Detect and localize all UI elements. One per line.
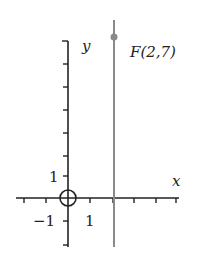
y-axis-label: y	[81, 37, 91, 55]
y-tick-label-1: 1	[49, 168, 59, 186]
point-f-marker	[111, 34, 118, 41]
y-axis	[62, 41, 68, 247]
x-axis	[16, 198, 179, 203]
x-tick-label-neg1: −1	[33, 212, 55, 230]
y-axis-ticks	[62, 41, 68, 245]
x-tick-label-1: 1	[85, 212, 95, 230]
point-f-label: F(2,7)	[129, 43, 176, 61]
coordinate-plane: y x 1 −1 1 F(2,7)	[0, 0, 211, 257]
x-axis-label: x	[172, 172, 181, 190]
